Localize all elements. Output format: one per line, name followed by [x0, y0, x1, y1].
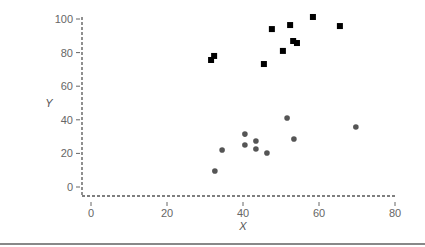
x-tick-label: 40	[237, 207, 249, 219]
circle-marker	[253, 138, 259, 144]
circle-marker	[284, 115, 290, 121]
bottom-divider	[0, 243, 425, 245]
y-tick-label: 0	[67, 181, 73, 193]
square-marker	[337, 23, 343, 29]
square-marker	[287, 22, 293, 28]
square-marker	[310, 14, 316, 20]
y-tick-label: 60	[61, 80, 73, 92]
y-tick-label: 40	[61, 114, 73, 126]
y-tick-label: 20	[61, 147, 73, 159]
square-marker	[211, 53, 217, 59]
circle-marker	[219, 147, 225, 153]
axes	[82, 17, 395, 196]
series-circles	[212, 115, 359, 174]
circle-marker	[264, 150, 270, 156]
x-tick-label: 60	[313, 207, 325, 219]
square-marker	[269, 26, 275, 32]
circle-marker	[291, 136, 297, 142]
circle-marker	[212, 168, 218, 174]
square-marker	[261, 61, 267, 67]
x-tick-label: 80	[389, 207, 401, 219]
tick-labels: 020406080100020406080	[55, 13, 401, 219]
y-axis-title: Y	[45, 97, 53, 109]
circle-marker	[353, 124, 359, 130]
x-tick-label: 0	[88, 207, 94, 219]
y-tick-label: 100	[55, 13, 73, 25]
scatter-chart: 020406080100020406080 X Y	[0, 0, 425, 247]
x-axis-title: X	[238, 220, 247, 232]
circle-marker	[253, 146, 259, 152]
circle-marker	[242, 131, 248, 137]
square-marker	[280, 48, 286, 54]
circle-marker	[242, 142, 248, 148]
square-marker	[294, 40, 300, 46]
series-squares	[208, 14, 343, 67]
y-tick-label: 80	[61, 47, 73, 59]
x-tick-label: 20	[161, 207, 173, 219]
